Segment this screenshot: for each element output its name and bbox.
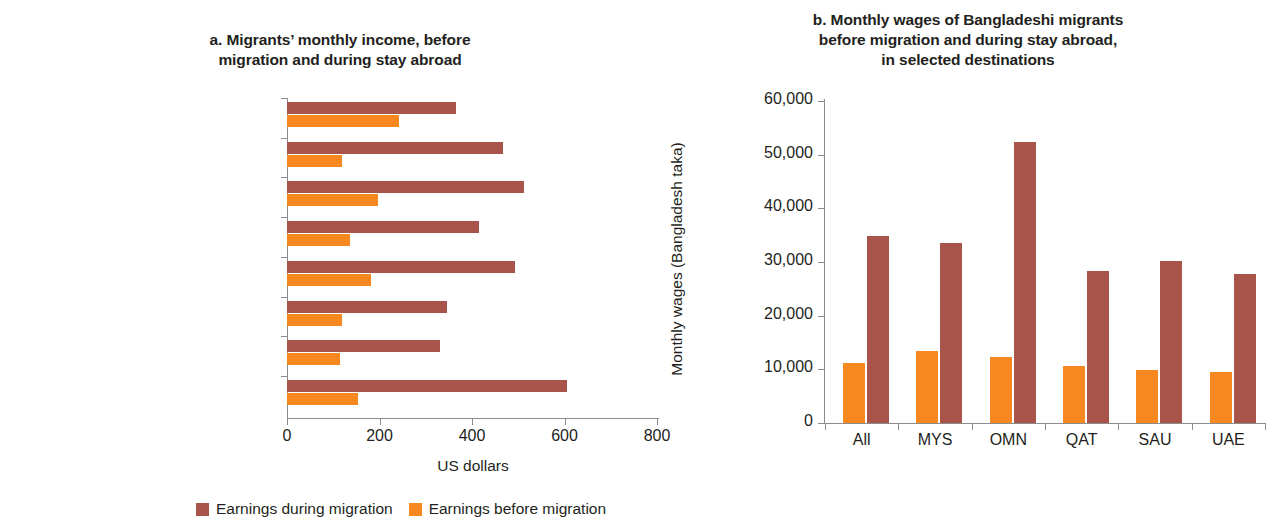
legend-swatch-before-icon: [409, 503, 422, 516]
panel-b-y-tick: [818, 208, 825, 209]
panel-b-x-tick: [972, 423, 973, 430]
panel-a-bar-during: [287, 301, 447, 313]
panel-a-bar-during: [287, 380, 567, 392]
panel-a-x-axis-line: [287, 418, 659, 419]
panel-b-y-tick-label: 60,000: [764, 90, 813, 108]
panel-b-bar-group: [1136, 101, 1182, 423]
panel-b-y-tick: [818, 155, 825, 156]
panel-a-x-tick: [657, 418, 658, 425]
legend-item-during-migration: Earnings during migration: [196, 500, 393, 518]
panel-a-x-axis-label: US dollars: [287, 457, 659, 475]
panel-a-category-tick: [281, 376, 287, 377]
panel-a-bar-before: [287, 115, 399, 127]
panel-a-bar-before: [287, 353, 340, 365]
panel-b-bar-group: [1210, 101, 1256, 423]
panel-a-category-tick: [281, 257, 287, 258]
panel-a-bar-before: [287, 155, 342, 167]
panel-b-y-axis-label: Monthly wages (Bangladesh taka): [668, 94, 686, 424]
panel-b-bar-group: [990, 101, 1036, 423]
panel-b-y-tick: [818, 101, 825, 102]
panel-a-x-tick-label: 200: [366, 427, 393, 445]
panel-b-y-tick-label: 40,000: [764, 197, 813, 215]
panel-b-title-line3: in selected destinations: [708, 50, 1228, 70]
legend-label-before: Earnings before migration: [429, 500, 607, 518]
panel-b-x-tick: [1118, 423, 1119, 430]
panel-b-y-tick: [818, 423, 825, 424]
panel-b-x-tick: [825, 423, 826, 430]
panel-a-bar-during: [287, 181, 524, 193]
panel-a-x-tick-label: 0: [283, 427, 292, 445]
panel-a-x-tick-label: 400: [459, 427, 486, 445]
panel-b-x-tick-label: SAU: [1139, 431, 1172, 449]
panel-a-title: a. Migrants’ monthly income, before migr…: [150, 30, 530, 70]
panel-a-category-tick: [281, 98, 287, 99]
panel-b-y-tick: [818, 316, 825, 317]
panel-b-y-tick-label: 50,000: [764, 144, 813, 162]
panel-b-y-tick: [818, 369, 825, 370]
panel-b-bar-before: [916, 351, 938, 423]
panel-a-plot-area: [287, 98, 657, 416]
panel-a-bar-during: [287, 142, 503, 154]
panel-a-category-tick: [281, 138, 287, 139]
panel-b-bar-group: [1063, 101, 1109, 423]
panel-a-bar-group: [287, 138, 657, 178]
panel-b-bar-before: [990, 357, 1012, 423]
panel-a-x-tick-label: 600: [551, 427, 578, 445]
panel-b-y-tick-label: 20,000: [764, 305, 813, 323]
panel-b-x-tick: [1045, 423, 1046, 430]
panel-b-x-tick: [1265, 423, 1266, 430]
panel-b-title-line1: b. Monthly wages of Bangladeshi migrants: [708, 10, 1228, 30]
panel-b-x-tick: [898, 423, 899, 430]
panel-b-x-tick-label: UAE: [1212, 431, 1245, 449]
panel-a-x-tick: [380, 418, 381, 425]
panel-a-category-tick: [281, 177, 287, 178]
panel-a-title-line1: a. Migrants’ monthly income, before: [150, 30, 530, 50]
panel-a-legend: Earnings during migration Earnings befor…: [196, 500, 606, 518]
panel-b-y-tick-label: 0: [804, 412, 813, 430]
panel-b-title-line2: before migration and during stay abroad,: [708, 30, 1228, 50]
panel-b-plot-area: [825, 101, 1265, 423]
panel-a-bar-group: [287, 336, 657, 376]
legend-item-before-migration: Earnings before migration: [409, 500, 607, 518]
panel-a-bar-group: [287, 297, 657, 337]
panel-b-x-tick-label: MYS: [918, 431, 953, 449]
panel-a-bar-group: [287, 217, 657, 257]
panel-b-bar-before: [1210, 372, 1232, 423]
panel-a-bar-group: [287, 257, 657, 297]
panel-a-migrants-monthly-income: a. Migrants’ monthly income, before migr…: [0, 0, 660, 528]
panel-b-title: b. Monthly wages of Bangladeshi migrants…: [708, 10, 1228, 70]
panel-b-x-tick-label: All: [853, 431, 871, 449]
panel-b-bar-during: [1234, 274, 1256, 423]
panel-b-bar-before: [1136, 370, 1158, 423]
panel-b-bar-during: [867, 236, 889, 423]
figure-container: a. Migrants’ monthly income, before migr…: [0, 0, 1288, 528]
panel-b-bar-during: [940, 243, 962, 423]
panel-a-bar-group: [287, 98, 657, 138]
panel-a-bar-during: [287, 340, 440, 352]
panel-b-bar-during: [1014, 142, 1036, 423]
panel-b-bar-group: [916, 101, 962, 423]
panel-a-bar-during: [287, 261, 515, 273]
panel-a-title-line2: migration and during stay abroad: [150, 50, 530, 70]
panel-a-bar-during: [287, 102, 456, 114]
panel-a-category-tick: [281, 336, 287, 337]
panel-a-x-tick: [565, 418, 566, 425]
panel-a-bar-group: [287, 177, 657, 217]
panel-b-bar-before: [843, 363, 865, 423]
panel-b-x-tick-label: QAT: [1066, 431, 1098, 449]
panel-b-bar-during: [1087, 271, 1109, 423]
panel-a-x-tick: [472, 418, 473, 425]
panel-a-bar-before: [287, 274, 371, 286]
panel-b-x-tick-label: OMN: [990, 431, 1027, 449]
panel-b-bar-before: [1063, 366, 1085, 423]
panel-b-bar-during: [1160, 261, 1182, 423]
panel-a-category-tick: [281, 297, 287, 298]
legend-swatch-during-icon: [196, 503, 209, 516]
panel-a-bar-before: [287, 393, 358, 405]
panel-a-bar-group: [287, 376, 657, 416]
panel-b-y-tick-label: 10,000: [764, 358, 813, 376]
panel-b-y-tick: [818, 262, 825, 263]
panel-a-bar-before: [287, 234, 350, 246]
legend-label-during: Earnings during migration: [216, 500, 393, 518]
panel-b-x-tick: [1192, 423, 1193, 430]
